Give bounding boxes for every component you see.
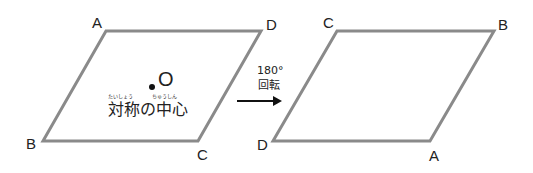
right-vertex-A: A [429,147,439,164]
rotation-angle: 180° [257,64,284,77]
left-vertex-B: B [26,135,36,152]
left-vertex-A: A [92,14,102,31]
right-arrow-icon [237,96,282,106]
center-caption: 対称の中心 [108,100,188,119]
left-vertex-C: C [197,146,208,163]
right-vertex-D: D [257,136,268,153]
center-label: O [158,68,174,90]
center-point [149,84,155,90]
rotation-label: 回転 [258,79,280,92]
left-vertex-D: D [266,16,277,33]
furigana-taishou: たいしょう [108,93,133,100]
right-vertex-B: B [498,16,508,33]
right-vertex-C: C [323,14,334,31]
right-parallelogram [273,31,494,141]
furigana-chuushin: ちゅうしん [152,93,177,100]
